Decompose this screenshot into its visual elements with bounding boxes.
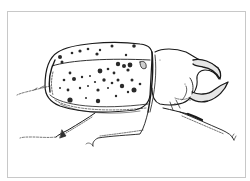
elytra-spots [58, 44, 141, 103]
lower-horn [190, 82, 228, 102]
middle-leg [93, 112, 148, 146]
front-leg [180, 112, 234, 140]
beetle-illustration [0, 0, 250, 181]
